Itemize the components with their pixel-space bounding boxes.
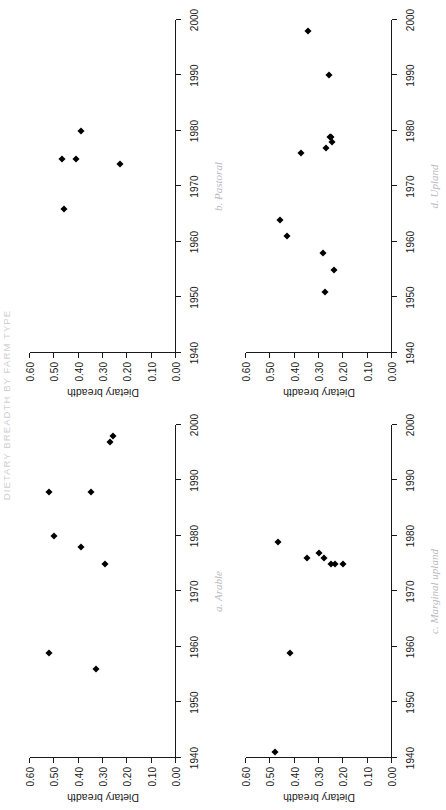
panel-title: c. Marginal upland — [428, 425, 440, 758]
y-tick-label: 0.40 — [289, 767, 300, 786]
x-tick — [176, 19, 181, 20]
y-tick-label: 0.50 — [49, 767, 60, 786]
x-tick-label: 1940 — [405, 747, 416, 769]
y-tick — [78, 758, 79, 763]
y-tick-label: 0.10 — [146, 767, 157, 786]
x-tick-label: 1950 — [189, 691, 200, 713]
x-tick — [176, 186, 181, 187]
x-tick-label: 2000 — [405, 9, 416, 31]
y-tick-label: 0.20 — [122, 362, 133, 381]
x-tick — [176, 352, 181, 353]
y-tick-label: 0.50 — [265, 767, 276, 786]
data-point — [51, 532, 58, 539]
x-tick-label: 1940 — [189, 342, 200, 364]
panel-a-arable: 19401950196019701980199020000.000.100.20… — [14, 405, 230, 810]
x-tick-label: 2000 — [189, 9, 200, 31]
x-tick — [176, 535, 181, 536]
panel-title: b. Pastoral — [212, 20, 224, 353]
x-tick — [392, 646, 397, 647]
data-point — [87, 488, 94, 495]
y-axis-line — [246, 757, 392, 758]
x-tick — [392, 535, 397, 536]
x-tick — [392, 130, 397, 131]
data-point — [319, 250, 326, 257]
plot-area: 19401950196019701980199020000.000.100.20… — [30, 425, 176, 758]
data-point — [272, 749, 279, 756]
y-tick — [126, 758, 127, 763]
plot-area: 19401950196019701980199020000.000.100.20… — [246, 20, 392, 353]
y-tick — [245, 353, 246, 358]
data-point — [102, 560, 109, 567]
rotated-figure-canvas: DIETARY BREADTH BY FARM TYPE 19401950196… — [0, 0, 446, 810]
x-axis-line — [175, 20, 176, 353]
y-tick — [391, 758, 392, 763]
data-point — [78, 544, 85, 551]
y-tick — [126, 353, 127, 358]
y-tick-label: 0.20 — [122, 767, 133, 786]
x-axis-line — [391, 20, 392, 353]
y-tick — [391, 353, 392, 358]
y-tick-label: 0.10 — [362, 362, 373, 381]
x-tick — [176, 424, 181, 425]
y-tick-label: 0.40 — [289, 362, 300, 381]
x-axis-line — [391, 425, 392, 758]
x-tick-label: 2000 — [405, 414, 416, 436]
data-point — [323, 144, 330, 151]
x-tick — [392, 75, 397, 76]
x-tick — [392, 480, 397, 481]
y-axis-title: Dietary breadth — [67, 387, 139, 399]
data-point — [78, 127, 85, 134]
y-tick — [175, 758, 176, 763]
y-tick — [151, 353, 152, 358]
data-point — [46, 649, 53, 656]
y-tick-label: 0.30 — [314, 767, 325, 786]
y-tick-label: 0.30 — [98, 767, 109, 786]
y-tick — [29, 758, 30, 763]
panel-d-upland: 19401950196019701980199020000.000.100.20… — [230, 0, 446, 405]
data-point — [328, 133, 335, 140]
y-tick — [78, 353, 79, 358]
x-tick-label: 1960 — [189, 636, 200, 658]
x-tick-label: 1970 — [405, 175, 416, 197]
panel-c-marginal-upland: 19401950196019701980199020000.000.100.20… — [230, 405, 446, 810]
y-tick-label: 0.50 — [49, 362, 60, 381]
data-point — [305, 28, 312, 35]
y-tick — [318, 758, 319, 763]
y-tick — [269, 758, 270, 763]
figure-page: DIETARY BREADTH BY FARM TYPE 19401950196… — [0, 0, 446, 810]
data-point — [322, 288, 329, 295]
y-tick — [53, 353, 54, 358]
data-point — [303, 555, 310, 562]
x-tick — [176, 480, 181, 481]
x-tick-label: 1970 — [189, 175, 200, 197]
data-point — [58, 155, 65, 162]
y-tick — [29, 353, 30, 358]
y-tick — [318, 353, 319, 358]
y-tick — [342, 353, 343, 358]
y-tick-label: 0.30 — [98, 362, 109, 381]
y-axis-title: Dietary breadth — [283, 792, 355, 804]
y-tick-label: 0.60 — [25, 767, 36, 786]
y-tick-label: 0.10 — [146, 362, 157, 381]
data-point — [116, 161, 123, 168]
x-tick — [176, 130, 181, 131]
x-tick-label: 1980 — [405, 525, 416, 547]
x-tick — [176, 757, 181, 758]
y-tick — [294, 353, 295, 358]
x-tick-label: 1980 — [189, 525, 200, 547]
x-tick-label: 1990 — [405, 64, 416, 86]
data-point — [73, 155, 80, 162]
x-tick-label: 1970 — [405, 580, 416, 602]
x-tick-label: 1940 — [189, 747, 200, 769]
y-tick-label: 0.40 — [73, 362, 84, 381]
y-tick — [53, 758, 54, 763]
x-tick-label: 1950 — [405, 691, 416, 713]
x-tick — [176, 702, 181, 703]
data-point — [46, 488, 53, 495]
x-tick-label: 1960 — [189, 231, 200, 253]
y-tick — [175, 353, 176, 358]
x-tick — [392, 241, 397, 242]
y-tick-label: 0.30 — [314, 362, 325, 381]
y-tick-label: 0.00 — [387, 362, 398, 381]
running-head: DIETARY BREADTH BY FARM TYPE — [0, 0, 14, 810]
